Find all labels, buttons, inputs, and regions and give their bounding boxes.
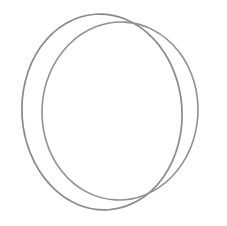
figure-canvas (0, 0, 227, 226)
ellipse-figure (0, 0, 227, 226)
figure-background (0, 0, 227, 226)
